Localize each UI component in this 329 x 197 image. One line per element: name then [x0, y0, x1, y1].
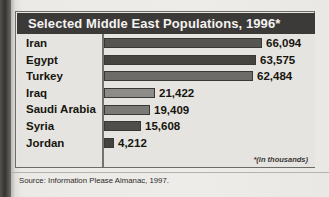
bar-zone: 63,575	[104, 52, 295, 69]
bar-value-label: 19,409	[154, 104, 189, 116]
bar-category-label: Iran	[26, 35, 47, 52]
bar-category-label: Jordan	[26, 135, 64, 152]
bar-category-label: Egypt	[26, 52, 58, 69]
bar-zone: 15,608	[104, 118, 180, 135]
source-divider	[11, 172, 329, 173]
bar	[104, 121, 141, 131]
page-spine	[0, 0, 11, 197]
chart-title-band: Selected Middle East Populations, 1996*	[17, 13, 315, 34]
bar-value-label: 15,608	[145, 120, 180, 132]
bar-row: Syria15,608	[17, 118, 315, 135]
bar-row: Turkey62,484	[17, 68, 315, 85]
bar-category-label: Saudi Arabia	[26, 101, 96, 118]
chart-title: Selected Middle East Populations, 1996*	[17, 16, 280, 31]
bar-value-label: 62,484	[257, 70, 292, 82]
bar-category-label: Turkey	[26, 68, 63, 85]
bar	[104, 105, 150, 115]
bar	[104, 71, 253, 81]
bar	[104, 88, 155, 98]
bar-zone: 19,409	[104, 101, 189, 118]
chart-source: Source: Information Please Almanac, 1997…	[19, 176, 169, 185]
bar-category-label: Iraq	[26, 85, 47, 102]
bar	[104, 55, 256, 65]
bar-value-label: 66,094	[266, 37, 301, 49]
bar-row: Saudi Arabia19,409	[17, 101, 315, 118]
bar-row: Egypt63,575	[17, 52, 315, 69]
bar	[104, 38, 262, 48]
bar-zone: 21,422	[104, 85, 194, 102]
bar-row-list: Iran66,094Egypt63,575Turkey62,484Iraq21,…	[17, 35, 315, 151]
chart-plot-area: Iran66,094Egypt63,575Turkey62,484Iraq21,…	[17, 34, 315, 167]
bar-value-label: 63,575	[260, 54, 295, 66]
bar	[104, 138, 114, 148]
bar-row: Iraq21,422	[17, 85, 315, 102]
chart-footnote: *(in thousands)	[253, 155, 308, 164]
bar-zone: 62,484	[104, 68, 292, 85]
bar-category-label: Syria	[26, 118, 54, 135]
bar-zone: 4,212	[104, 135, 147, 152]
bar-row: Iran66,094	[17, 35, 315, 52]
bar-row: Jordan4,212	[17, 135, 315, 152]
page-background: Selected Middle East Populations, 1996* …	[0, 0, 329, 197]
bar-zone: 66,094	[104, 35, 301, 52]
chart-frame: Selected Middle East Populations, 1996* …	[15, 11, 315, 168]
bar-value-label: 4,212	[118, 137, 147, 149]
bar-value-label: 21,422	[159, 87, 194, 99]
